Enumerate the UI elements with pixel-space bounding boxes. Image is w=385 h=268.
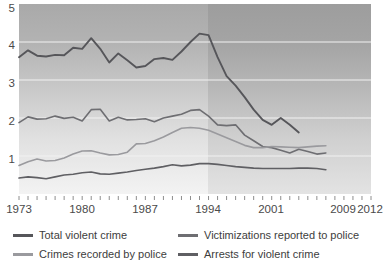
x-axis-ticks — [19, 196, 371, 200]
legend-item-arrests-for-violent-crime: Arrests for violent crime — [178, 248, 320, 261]
legend-swatch-total-violent-crime — [13, 234, 33, 237]
x-axis-tick-1987: 1987 — [129, 203, 161, 215]
legend-item-total-violent-crime: Total violent crime — [13, 229, 127, 242]
x-axis-tick-1980: 1980 — [66, 203, 98, 215]
x-axis-tick-2012: 2012 — [354, 203, 385, 215]
legend-label-total-violent-crime: Total violent crime — [39, 229, 127, 242]
legend-swatch-victimizations-reported-to-police — [178, 234, 198, 237]
x-axis-tick-2001: 2001 — [255, 203, 287, 215]
x-axis-tick-1994: 1994 — [192, 203, 224, 215]
x-axis-tick-1973: 1973 — [3, 203, 35, 215]
legend-label-victimizations-reported-to-police: Victimizations reported to police — [204, 229, 359, 242]
legend-swatch-arrests-for-violent-crime — [178, 253, 198, 256]
legend-label-crimes-recorded-by-police: Crimes recorded by police — [39, 248, 167, 261]
plot-area — [0, 0, 385, 200]
legend-swatch-crimes-recorded-by-police — [13, 253, 33, 256]
violent-crime-trends-chart: 5 4 3 2 1 — [0, 0, 385, 268]
legend-item-crimes-recorded-by-police: Crimes recorded by police — [13, 248, 167, 261]
legend-label-arrests-for-violent-crime: Arrests for violent crime — [204, 248, 320, 261]
legend-item-victimizations-reported-to-police: Victimizations reported to police — [178, 229, 359, 242]
chart-legend: Total violent crime Victimizations repor… — [0, 228, 385, 268]
